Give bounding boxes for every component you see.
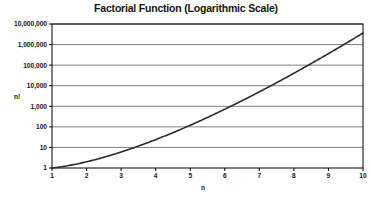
plot-background xyxy=(52,24,363,168)
y-axis-tick-label: 1,000,000 xyxy=(18,41,48,49)
x-axis-tick-label: 7 xyxy=(257,172,261,179)
x-axis-title: n xyxy=(201,184,205,191)
y-axis-tick-label: 1,000 xyxy=(30,103,47,111)
x-axis-tick-label: 6 xyxy=(223,172,227,179)
x-axis-tick-label: 5 xyxy=(188,172,192,179)
y-axis-tick-label: 10,000 xyxy=(27,82,48,90)
y-axis-tick-label: 10 xyxy=(40,144,48,151)
chart-plot: 1101001,00010,000100,0001,000,00010,000,… xyxy=(0,0,372,200)
y-axis-title: n! xyxy=(14,93,20,100)
x-axis-tick-label: 1 xyxy=(50,172,54,179)
x-axis-tick-label: 8 xyxy=(292,172,296,179)
y-axis-tick-label: 10,000,000 xyxy=(14,20,47,28)
x-axis-tick-label: 2 xyxy=(85,172,89,179)
x-axis-tick-label: 4 xyxy=(154,172,158,179)
x-axis-tick-label: 9 xyxy=(327,172,331,179)
x-axis-tick-label: 10 xyxy=(359,172,367,179)
y-axis-tick-label: 1 xyxy=(43,164,47,171)
x-axis-tick-label: 3 xyxy=(119,172,123,179)
x-axis-tick-labels: 12345678910 xyxy=(50,172,367,179)
chart-figure: Factorial Function (Logarithmic Scale) 1… xyxy=(0,0,372,200)
y-axis-tick-label: 100,000 xyxy=(23,62,47,70)
y-axis-tick-label: 100 xyxy=(36,123,47,130)
